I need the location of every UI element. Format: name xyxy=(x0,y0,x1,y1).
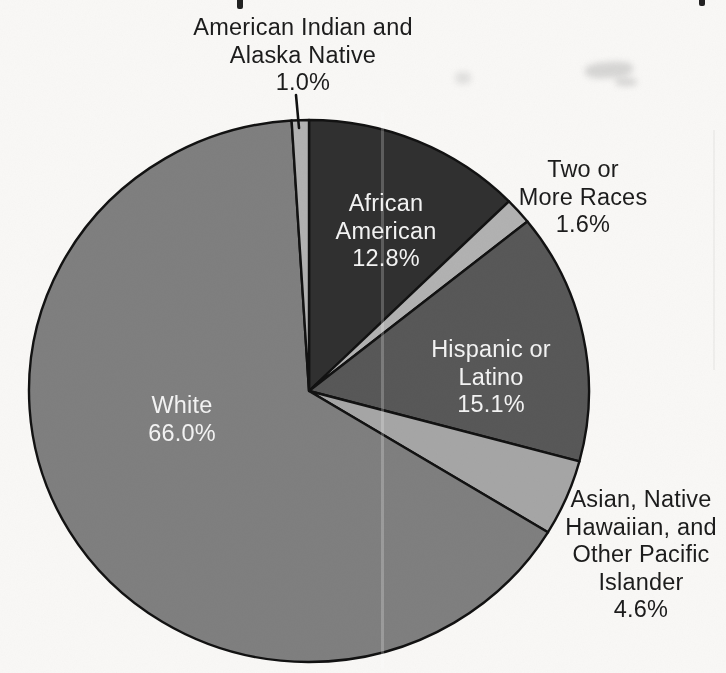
cropped-title-fragment xyxy=(237,0,243,9)
scan-grain-overlay xyxy=(0,0,726,673)
pie-chart-figure: American Indian andAlaska Native1.0%Two … xyxy=(0,0,726,673)
pie-chart xyxy=(0,0,726,673)
bleedthrough-smudge xyxy=(615,78,637,86)
scan-crease xyxy=(381,112,384,668)
bleedthrough-smudge xyxy=(455,72,471,84)
scan-crease-right xyxy=(713,130,715,370)
cropped-title-fragment xyxy=(699,0,705,6)
